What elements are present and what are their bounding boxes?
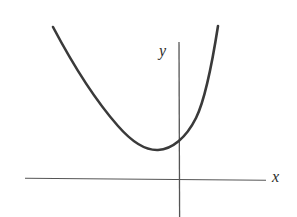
parabola-curve — [53, 26, 218, 150]
y-axis-line — [179, 42, 180, 217]
x-axis-label: x — [272, 169, 279, 185]
x-axis-line — [25, 178, 266, 180]
y-axis-label: y — [159, 43, 166, 59]
parabola-figure: y x — [0, 0, 297, 217]
graph-canvas — [0, 0, 297, 217]
